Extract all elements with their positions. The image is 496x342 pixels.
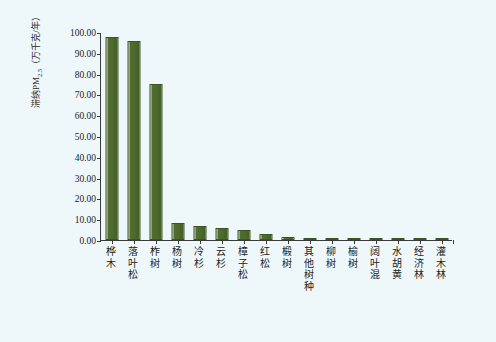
plot-area (100, 33, 452, 241)
x-axis-tick-mark (332, 240, 333, 244)
bar-slot (167, 33, 189, 240)
bar[interactable] (106, 37, 119, 240)
bar-series (101, 33, 452, 240)
y-axis-tick-label: 60.00 (52, 111, 96, 121)
x-axis-tick-label: 榆树 (345, 246, 361, 269)
bar-slot (233, 33, 255, 240)
x-axis-tick-label: 落叶松 (125, 246, 141, 281)
y-axis-tick-label: 90.00 (52, 49, 96, 59)
x-axis-tick-label: 云杉 (213, 246, 229, 269)
x-axis-tick-label: 椴树 (279, 246, 295, 269)
bar-slot (365, 33, 387, 240)
bar-slot (145, 33, 167, 240)
y-axis-tick-mark (97, 179, 101, 180)
bar-slot (431, 33, 453, 240)
bar-slot (101, 33, 123, 240)
bar[interactable] (216, 228, 229, 240)
y-axis-tick-mark (97, 220, 101, 221)
x-axis-tick-mark (266, 240, 267, 244)
y-axis-tick-mark (97, 95, 101, 96)
bar-slot (387, 33, 409, 240)
x-axis-tick-label: 其他树种 (301, 246, 317, 292)
bar-slot (299, 33, 321, 240)
x-axis-tick-label: 樟子松 (235, 246, 251, 281)
bar-slot (409, 33, 431, 240)
y-axis-tick-mark (97, 241, 101, 242)
x-axis-tick-mark (398, 240, 399, 244)
y-axis-tick-label: 10.00 (52, 215, 96, 225)
y-axis-tick-mark (97, 199, 101, 200)
bar[interactable] (150, 84, 163, 240)
y-axis-tick-label: 80.00 (52, 70, 96, 80)
x-axis-tick-label: 水胡黄 (389, 246, 405, 281)
x-axis-tick-mark (178, 240, 179, 244)
x-axis-tick-mark (134, 240, 135, 244)
y-axis-tick-label: 20.00 (52, 194, 96, 204)
y-axis-tick-mark (97, 75, 101, 76)
chart-figure: 滞纳PM2.5（万千克/年） 0.0010.0020.0030.0040.005… (0, 0, 496, 342)
x-axis-tick-mark (354, 240, 355, 244)
y-axis-title-subscript: 2.5 (36, 69, 43, 77)
x-axis-tick-label: 灌木林 (433, 246, 449, 281)
x-axis-tick-labels: 桦木落叶松柞树杨树冷杉云杉樟子松红松椴树其他树种柳树榆树阔叶混水胡黄经济林灌木林 (100, 246, 452, 338)
x-axis-tick-mark (420, 240, 421, 244)
y-axis-tick-mark (97, 54, 101, 55)
bar[interactable] (172, 223, 185, 240)
y-axis-tick-label: 70.00 (52, 90, 96, 100)
bar[interactable] (194, 226, 207, 240)
x-axis-tick-mark (244, 240, 245, 244)
x-axis-tick-mark (442, 240, 443, 244)
bar-slot (189, 33, 211, 240)
y-axis-tick-label: 40.00 (52, 153, 96, 163)
x-axis-tick-mark (200, 240, 201, 244)
bar-slot (277, 33, 299, 240)
y-axis-tick-mark (97, 116, 101, 117)
x-axis-tick-label: 杨树 (169, 246, 185, 269)
x-axis-tick-label: 经济林 (411, 246, 427, 281)
bar-slot (321, 33, 343, 240)
x-axis-tick-label: 红松 (257, 246, 273, 269)
y-axis-tick-mark (97, 33, 101, 34)
y-axis-tick-mark (97, 137, 101, 138)
y-axis-tick-label: 0.00 (52, 236, 96, 246)
x-axis-tick-mark (222, 240, 223, 244)
y-axis-title-main: 滞纳PM (31, 77, 41, 108)
bar[interactable] (128, 41, 141, 240)
x-axis-tick-mark (112, 240, 113, 244)
x-axis-tick-label: 桦木 (103, 246, 119, 269)
x-axis-tick-mark (376, 240, 377, 244)
x-axis-tick-label: 冷杉 (191, 246, 207, 269)
y-axis-title-unit: （万千克/年） (31, 12, 41, 69)
y-axis-tick-label: 30.00 (52, 174, 96, 184)
y-axis-tick-label: 100.00 (52, 28, 96, 38)
bar-slot (255, 33, 277, 240)
bar-slot (343, 33, 365, 240)
x-axis-end-tick-mark (453, 240, 454, 244)
y-axis-title: 滞纳PM2.5（万千克/年） (28, 0, 44, 108)
x-axis-tick-mark (288, 240, 289, 244)
y-axis-tick-labels: 0.0010.0020.0030.0040.0050.0060.0070.008… (52, 33, 96, 241)
bar[interactable] (238, 230, 251, 240)
x-axis-tick-mark (310, 240, 311, 244)
bar-slot (123, 33, 145, 240)
x-axis-tick-label: 柞树 (147, 246, 163, 269)
x-axis-tick-label: 阔叶混 (367, 246, 383, 281)
x-axis-tick-label: 柳树 (323, 246, 339, 269)
x-axis-tick-mark (156, 240, 157, 244)
y-axis-tick-mark (97, 158, 101, 159)
y-axis-tick-label: 50.00 (52, 132, 96, 142)
bar-slot (211, 33, 233, 240)
